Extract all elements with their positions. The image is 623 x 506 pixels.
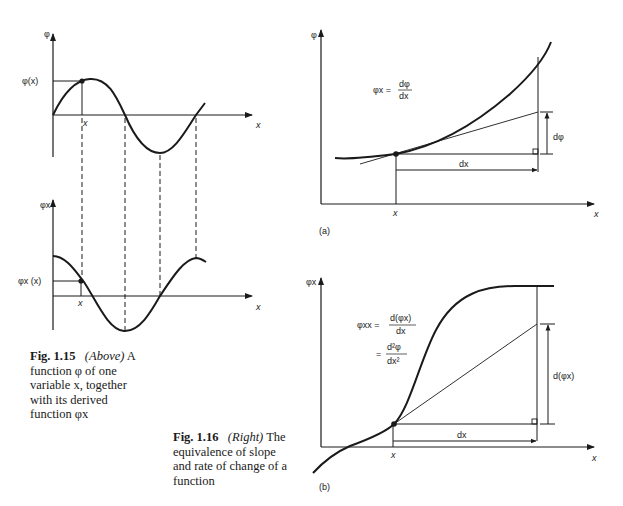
fig115-bottom-plot: φx φx (x) x x: [18, 200, 261, 331]
formula-den: dx: [399, 91, 409, 101]
point-x-label: x: [82, 118, 88, 128]
run-label: dx: [457, 430, 467, 440]
point-marker: [393, 151, 399, 157]
caption-number: Fig. 1.15: [30, 349, 75, 363]
sigmoid-curve: [313, 286, 554, 473]
right-angle-mark: [532, 419, 537, 424]
y-axis-label: φx: [306, 277, 317, 287]
x-axis-label: x: [255, 120, 261, 130]
y-axis-label: φ: [311, 30, 317, 40]
formula2-num: d²φ: [387, 342, 401, 352]
y-axis-label: φx: [40, 200, 51, 210]
convex-curve: [335, 42, 551, 159]
point-x-label: x: [390, 450, 396, 460]
point-value-label: φ(x): [22, 76, 38, 86]
run-label: dx: [459, 159, 469, 169]
caption-line: function φ of one: [30, 364, 150, 379]
rise-label: d(φx): [553, 371, 574, 381]
point-marker: [391, 421, 397, 427]
caption-line: and rate of change of a: [173, 459, 303, 474]
point-x-label: x: [392, 208, 398, 218]
x-axis-label: x: [593, 209, 599, 219]
point-marker: [78, 278, 83, 283]
connecting-dashed-lines: [82, 118, 196, 330]
caption-position: (Above): [85, 349, 125, 363]
formula1-num: d(φx): [390, 313, 411, 323]
fig116-caption: Fig. 1.16 (Right) The equivalence of slo…: [173, 430, 303, 488]
fig116-panel-b: φx x x φxx = d(φx) dx = d²φ dx² d(φx) dx…: [306, 277, 597, 492]
right-angle-mark: [533, 149, 538, 154]
caption-number: Fig. 1.16: [173, 430, 218, 444]
cosine-curve: [53, 256, 206, 331]
panel-label: (a): [319, 226, 330, 236]
figure-canvas: φ φ(x) x x φx φx (x) x x: [0, 0, 623, 506]
formula2-den: dx²: [387, 356, 400, 366]
sine-curve: [53, 79, 205, 153]
rise-label: dφ: [553, 132, 564, 142]
caption-line: equivalence of slope: [173, 445, 303, 460]
tangent-line: [360, 112, 538, 164]
x-axis-label: x: [591, 453, 597, 463]
formula2-lhs: =: [376, 349, 381, 359]
formula-lhs: φx =: [373, 85, 391, 95]
fig116-panel-a: φ x x φx = dφ dx dφ dx (a): [311, 30, 599, 236]
formula1-lhs: φxx =: [357, 320, 380, 330]
fig115-top-plot: φ φ(x) x x: [22, 29, 261, 157]
formula-num: dφ: [399, 79, 410, 89]
caption-text: A: [127, 349, 136, 363]
caption-line: variable x, together: [30, 378, 150, 393]
point-x-label: x: [77, 298, 83, 308]
formula1-den: dx: [396, 326, 406, 336]
panel-label: (b): [319, 482, 330, 492]
caption-line: function: [173, 474, 303, 489]
x-axis-label: x: [255, 302, 261, 312]
caption-line: with its derived: [30, 393, 150, 408]
point-marker: [79, 78, 84, 83]
fig115-caption: Fig. 1.15 (Above) A function φ of one va…: [30, 349, 150, 422]
secant-line: [394, 324, 537, 424]
caption-text: The: [266, 430, 285, 444]
y-axis-label: φ: [44, 29, 50, 39]
point-value-label: φx (x): [18, 276, 41, 286]
caption-position: (Right): [228, 430, 263, 444]
caption-line: function φx: [30, 407, 150, 422]
